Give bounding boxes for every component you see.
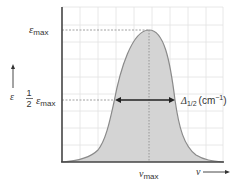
absorption-band-chart: εmax 1 2 εmax ε Δ1/2(cm−1) νmax ν [0, 0, 238, 185]
eps-max-label: εmax [29, 23, 48, 37]
svg-text:1: 1 [26, 88, 31, 98]
x-axis-arrow-icon [203, 170, 230, 174]
half-eps-max-label: 1 2 εmax [26, 88, 55, 109]
y-axis-label: ε [10, 91, 14, 102]
half-width-label: Δ1/2(cm−1) [180, 94, 227, 107]
x-axis-label: ν [196, 166, 201, 177]
nu-max-label: νmax [139, 168, 159, 181]
svg-text:2: 2 [26, 99, 31, 109]
svg-text:εmax: εmax [36, 94, 55, 108]
y-axis-arrow-icon [11, 64, 15, 88]
